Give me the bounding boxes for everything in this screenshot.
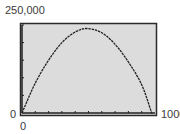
plot-frame (21, 24, 157, 116)
plot-area (0, 0, 180, 134)
